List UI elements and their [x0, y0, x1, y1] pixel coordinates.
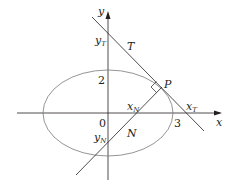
- normal-label: N: [126, 127, 137, 140]
- tangent-line: [92, 17, 204, 131]
- right-angle-marker: [151, 82, 157, 93]
- y-n-intercept-label: yN: [93, 131, 107, 145]
- x-t-intercept-label: xT: [186, 100, 198, 114]
- tangent-label: T: [127, 40, 136, 53]
- x-n-intercept-label: xN: [127, 100, 140, 114]
- x-axis-label: x: [216, 116, 223, 129]
- y-t-intercept-label: yT: [94, 34, 107, 48]
- point-p-label: P: [163, 78, 172, 91]
- y-axis-arrow-icon: [106, 11, 111, 19]
- origin-label: 0: [99, 117, 106, 130]
- normal-line: [76, 87, 162, 175]
- x-axis-arrow-icon: [214, 111, 222, 116]
- x-tick-label: 3: [174, 117, 181, 130]
- y-axis-label: y: [97, 5, 105, 18]
- y-tick-label: 2: [98, 74, 105, 87]
- diagram-canvas: y x 0 2 3 P T N yT xT xN yN: [0, 0, 231, 188]
